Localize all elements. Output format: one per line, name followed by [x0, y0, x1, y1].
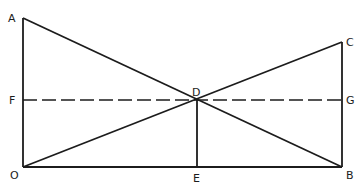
label-C: C — [346, 36, 354, 49]
label-D: D — [192, 86, 200, 99]
segment-OC — [23, 42, 342, 167]
geometry-diagram: A F O D E C G B — [0, 0, 363, 193]
label-F: F — [9, 94, 15, 107]
segment-AB — [23, 18, 342, 167]
label-E: E — [193, 172, 200, 185]
label-O: O — [10, 169, 19, 182]
label-A: A — [8, 12, 16, 25]
label-G: G — [346, 94, 355, 107]
label-B: B — [346, 169, 354, 182]
